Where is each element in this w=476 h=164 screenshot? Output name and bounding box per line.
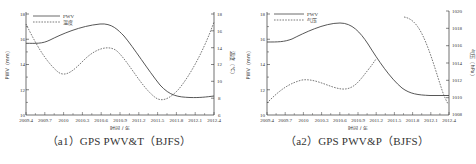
svg-text:16: 16 xyxy=(260,37,266,42)
svg-text:2009.4: 2009.4 xyxy=(19,118,33,123)
svg-text:2012.1: 2012.1 xyxy=(188,118,202,123)
svg-text:1018: 1018 xyxy=(452,26,463,31)
svg-text:2009.4: 2009.4 xyxy=(260,118,274,123)
svg-text:2012.4: 2012.4 xyxy=(207,118,221,123)
chart-a1-plot: 18 16 14 12 10 18 16 14 12 10 8 6 xyxy=(0,0,238,130)
svg-text:1010: 1010 xyxy=(452,95,463,100)
svg-text:2011.5: 2011.5 xyxy=(388,118,402,123)
svg-text:1008: 1008 xyxy=(452,112,463,117)
svg-text:2011.8: 2011.8 xyxy=(170,118,184,123)
svg-text:温度: 温度 xyxy=(63,19,73,26)
x-axis-ticks: 2009.4 2009.7 2010 2010.3 2010.6 2010.9 … xyxy=(260,112,456,123)
svg-text:2009.7: 2009.7 xyxy=(38,118,52,123)
pressure-line-2 xyxy=(404,17,448,104)
svg-text:2010.6: 2010.6 xyxy=(333,118,347,123)
svg-text:2009.7: 2009.7 xyxy=(278,118,292,123)
svg-text:2012.4: 2012.4 xyxy=(442,118,456,123)
pwv-line xyxy=(26,24,214,98)
svg-text:2010.9: 2010.9 xyxy=(113,118,127,123)
chart-a2-plot: 18 16 14 12 10 1020 1018 1016 1014 1012 … xyxy=(238,0,476,130)
svg-text:16: 16 xyxy=(20,37,26,42)
y-axis-label-right: 气压（hPa） xyxy=(469,49,476,78)
svg-text:2010.6: 2010.6 xyxy=(94,118,108,123)
pressure-line-1 xyxy=(267,59,376,103)
svg-text:2011.5: 2011.5 xyxy=(151,118,165,123)
chart-panel-a1: 18 16 14 12 10 18 16 14 12 10 8 6 xyxy=(0,0,238,164)
svg-text:1014: 1014 xyxy=(452,61,463,66)
svg-text:10: 10 xyxy=(217,79,223,84)
y-axis-label-right: 温度（℃） xyxy=(229,51,236,77)
svg-text:2010: 2010 xyxy=(59,118,70,123)
caption-a1: （a1）GPS PWV&T（BJFS） xyxy=(0,132,238,148)
svg-text:12: 12 xyxy=(217,62,223,67)
svg-text:2011.8: 2011.8 xyxy=(406,118,420,123)
svg-text:16: 16 xyxy=(217,29,223,34)
svg-text:PWV: PWV xyxy=(63,14,75,19)
x-axis-label: 时间 / 年 xyxy=(348,125,368,130)
right-axis-ticks: 18 16 14 12 10 8 6 xyxy=(211,12,223,118)
x-axis-ticks: 2009.4 2009.7 2010 2010.3 2010.6 2010.9 … xyxy=(19,112,221,123)
temperature-line xyxy=(26,22,214,100)
svg-text:PWV: PWV xyxy=(307,12,319,17)
svg-text:气压: 气压 xyxy=(307,17,317,24)
svg-text:2010.9: 2010.9 xyxy=(351,118,365,123)
svg-text:2011.2: 2011.2 xyxy=(369,118,383,123)
x-axis-label: 时间 / 年 xyxy=(110,125,130,130)
svg-text:18: 18 xyxy=(217,12,223,17)
svg-text:2010.3: 2010.3 xyxy=(315,118,329,123)
svg-text:14: 14 xyxy=(20,62,26,67)
caption-a2: （a2）GPS PWV&P（BJFS） xyxy=(238,132,476,148)
legend: PWV 气压 xyxy=(274,12,319,24)
svg-text:18: 18 xyxy=(20,12,26,17)
svg-text:14: 14 xyxy=(217,46,223,51)
svg-text:1020: 1020 xyxy=(452,9,463,14)
svg-text:2010: 2010 xyxy=(298,118,309,123)
svg-text:14: 14 xyxy=(260,62,266,67)
right-axis-ticks: 1020 1018 1016 1014 1012 1010 1008 xyxy=(446,9,463,117)
y-axis-label-left: PWV（mm） xyxy=(4,48,10,79)
chart-panel-a2: 18 16 14 12 10 1020 1018 1016 1014 1012 … xyxy=(238,0,476,164)
legend: PWV 温度 xyxy=(33,14,75,26)
svg-text:1012: 1012 xyxy=(452,78,463,83)
svg-text:12: 12 xyxy=(260,88,266,93)
svg-text:2010.3: 2010.3 xyxy=(76,118,90,123)
y-axis-label-left: PWV（mm） xyxy=(245,48,251,79)
svg-text:12: 12 xyxy=(20,88,26,93)
svg-text:1016: 1016 xyxy=(452,43,463,48)
left-axis-ticks: 18 16 14 12 10 xyxy=(260,12,270,118)
svg-text:2012.1: 2012.1 xyxy=(424,118,438,123)
svg-text:2011.2: 2011.2 xyxy=(132,118,146,123)
svg-text:8: 8 xyxy=(218,96,221,101)
svg-text:18: 18 xyxy=(260,12,266,17)
